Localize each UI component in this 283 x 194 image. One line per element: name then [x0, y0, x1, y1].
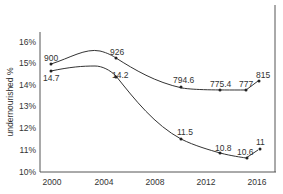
y-tick-10: 10%: [19, 167, 36, 177]
data-point: [180, 138, 183, 141]
y-tick-11: 11%: [20, 145, 37, 155]
label-815: 815: [256, 70, 270, 80]
data-point: [180, 86, 183, 89]
chart: 16% 15% 14% 13% 12% 11% 10% undernourish…: [0, 0, 283, 194]
y-tick-13: 13%: [19, 101, 36, 111]
y-tick-12: 12%: [19, 123, 36, 133]
x-tick-2004: 2004: [95, 177, 114, 187]
x-tick-2016: 2016: [248, 177, 267, 187]
label-11: 11: [256, 137, 265, 147]
label-900: 900: [44, 53, 58, 63]
label-11-5: 11.5: [177, 127, 193, 137]
label-777: 777: [239, 79, 253, 89]
label-10-8: 10.8: [215, 143, 232, 153]
y-tick-16: 16%: [19, 37, 36, 47]
y-tick-15: 15%: [19, 58, 36, 68]
label-14-2: 14.2: [112, 70, 129, 80]
label-926: 926: [110, 47, 124, 57]
label-10-6: 10.6: [237, 147, 254, 157]
label-775-4: 775.4: [210, 79, 232, 89]
x-tick-2000: 2000: [43, 177, 62, 187]
x-tick-2008: 2008: [146, 177, 165, 187]
data-point: [259, 148, 262, 151]
label-794-6: 794.6: [173, 75, 195, 85]
y-axis-label: undernourished %: [5, 67, 15, 136]
label-14-7: 14.7: [43, 73, 60, 83]
y-tick-14: 14%: [19, 80, 36, 90]
x-tick-2012: 2012: [197, 177, 216, 187]
